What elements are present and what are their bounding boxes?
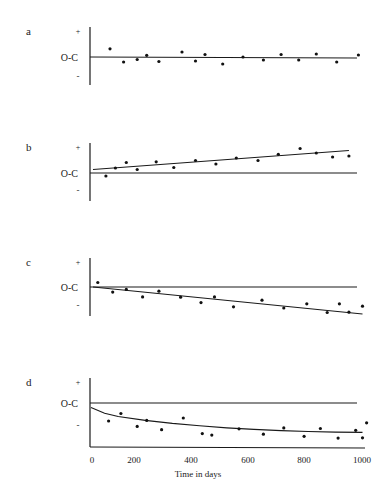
zero-reference-line: [90, 57, 357, 58]
data-point: [365, 421, 368, 424]
data-point: [277, 153, 280, 156]
data-point: [315, 52, 318, 55]
data-point: [122, 60, 125, 63]
panel-label-b: b: [26, 141, 32, 153]
data-point: [172, 166, 175, 169]
data-point: [315, 151, 318, 154]
data-point: [338, 302, 341, 305]
data-point: [303, 435, 306, 438]
data-point: [157, 60, 160, 63]
data-point: [337, 437, 340, 440]
y-plus-label: +: [76, 378, 81, 387]
data-point: [357, 53, 360, 56]
data-point: [354, 429, 357, 432]
x-tick-label: 800: [297, 455, 311, 465]
data-point: [114, 166, 117, 169]
data-point: [331, 155, 334, 158]
x-tick-label: 1000: [353, 455, 372, 465]
data-point: [326, 311, 329, 314]
x-tick-label: 600: [241, 455, 255, 465]
data-point: [282, 426, 285, 429]
data-point: [96, 281, 99, 284]
y-minus-label: -: [77, 71, 80, 81]
x-tick-label: 400: [184, 455, 198, 465]
x-tick-label: 200: [127, 455, 141, 465]
data-point: [119, 412, 122, 415]
data-point: [141, 295, 144, 298]
data-point: [361, 436, 364, 439]
data-point: [201, 432, 204, 435]
data-point: [108, 47, 111, 50]
oc-diagram-svg: a+O-C-b+O-C-c+O-C-d+O-C-0200400600800100…: [0, 0, 386, 489]
x-axis-title: Time in days: [175, 469, 222, 479]
data-point: [210, 434, 213, 437]
data-point: [297, 58, 300, 61]
data-point: [347, 154, 350, 157]
data-point: [347, 311, 350, 314]
data-point: [299, 147, 302, 150]
data-point: [282, 306, 285, 309]
data-point: [145, 54, 148, 57]
data-point: [262, 58, 265, 61]
y-oc-label: O-C: [61, 398, 79, 409]
y-oc-label: O-C: [61, 168, 79, 179]
data-point: [280, 53, 283, 56]
panel-label-c: c: [26, 256, 31, 268]
data-point: [125, 161, 128, 164]
linear-fit-line: [93, 287, 363, 314]
y-plus-label: +: [76, 143, 81, 152]
data-point: [136, 58, 139, 61]
oc-diagram-figure: a+O-C-b+O-C-c+O-C-d+O-C-0200400600800100…: [0, 0, 386, 489]
data-point: [180, 50, 183, 53]
data-point: [203, 53, 206, 56]
y-minus-label: -: [77, 300, 80, 310]
data-point: [213, 295, 216, 298]
y-oc-label: O-C: [61, 282, 79, 293]
data-point: [199, 301, 202, 304]
data-point: [145, 419, 148, 422]
data-point: [361, 305, 364, 308]
y-plus-label: +: [76, 27, 81, 36]
data-point: [182, 416, 185, 419]
data-point: [194, 59, 197, 62]
data-point: [194, 159, 197, 162]
data-point: [260, 299, 263, 302]
data-point: [111, 291, 114, 294]
data-point: [107, 419, 110, 422]
data-point: [136, 425, 139, 428]
data-point: [160, 428, 163, 431]
data-point: [262, 433, 265, 436]
data-point: [104, 174, 107, 177]
data-point: [237, 427, 240, 430]
x-axis-line: [90, 447, 365, 448]
x-tick-label: 0: [90, 455, 95, 465]
panel-label-d: d: [26, 376, 32, 388]
y-minus-label: -: [77, 420, 80, 430]
y-minus-label: -: [77, 185, 80, 195]
data-point: [221, 62, 224, 65]
data-point: [157, 290, 160, 293]
data-point: [235, 156, 238, 159]
data-point: [136, 168, 139, 171]
data-point: [155, 160, 158, 163]
data-point: [305, 302, 308, 305]
data-point: [319, 427, 322, 430]
data-point: [179, 296, 182, 299]
data-point: [256, 159, 259, 162]
y-oc-label: O-C: [61, 52, 79, 63]
data-point: [335, 60, 338, 63]
data-point: [241, 55, 244, 58]
data-point: [214, 162, 217, 165]
data-point: [125, 288, 128, 291]
data-point: [232, 305, 235, 308]
panel-label-a: a: [26, 25, 31, 37]
y-plus-label: +: [76, 258, 81, 267]
linear-fit-line: [93, 151, 349, 170]
